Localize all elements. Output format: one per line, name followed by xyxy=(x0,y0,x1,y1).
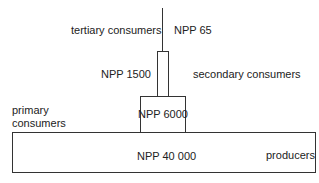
primary-bar: NPP 6000 xyxy=(140,96,186,133)
primary-level-label-line1: primary xyxy=(12,104,49,117)
tertiary-npp-label: NPP 65 xyxy=(174,24,212,37)
primary-npp-label: NPP 6000 xyxy=(138,108,188,121)
primary-level-label-line2: consumers xyxy=(12,117,66,130)
tertiary-bar xyxy=(162,8,163,52)
secondary-npp-label: NPP 1500 xyxy=(101,68,151,81)
tertiary-level-label: tertiary consumers xyxy=(71,24,161,37)
secondary-level-label: secondary consumers xyxy=(193,68,301,81)
producers-level-label: producers xyxy=(266,149,315,162)
producers-npp-label: NPP 40 000 xyxy=(137,150,196,163)
secondary-bar xyxy=(157,51,169,98)
